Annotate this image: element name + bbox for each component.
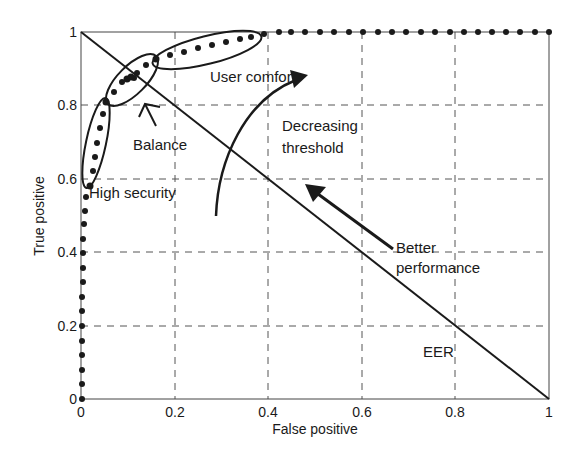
eer-line	[81, 32, 549, 399]
y-tick-labels: 0 0.2 0.4 0.6 0.8 1	[58, 24, 78, 407]
roc-chart: 0 0.2 0.4 0.6 0.8 1 0 0.2 0.4 0.6 0.8 1 …	[0, 0, 579, 466]
threshold-label: threshold	[282, 139, 344, 156]
user-comfort-label: User comfort	[210, 68, 297, 85]
x-tick: 0.4	[258, 404, 278, 420]
y-tick: 0.2	[58, 318, 78, 334]
y-tick: 0.8	[58, 97, 78, 113]
decreasing-label: Decreasing	[282, 117, 358, 134]
balance-label: Balance	[133, 136, 187, 153]
eer-label: EER	[423, 343, 454, 360]
better-label: Better	[396, 239, 436, 256]
y-tick: 1	[69, 24, 77, 40]
x-tick: 0.2	[165, 404, 185, 420]
y-tick: 0	[69, 391, 77, 407]
performance-label: performance	[396, 259, 480, 276]
y-tick: 0.6	[58, 171, 78, 187]
x-tick: 0	[77, 404, 85, 420]
x-tick: 0.6	[352, 404, 372, 420]
y-axis-label: True positive	[31, 176, 47, 256]
x-tick-labels: 0 0.2 0.4 0.6 0.8 1	[77, 404, 553, 420]
x-axis-label: False positive	[272, 421, 358, 437]
better-performance-arrow-icon	[305, 184, 393, 249]
y-tick: 0.4	[58, 244, 78, 260]
high-security-label: High security	[89, 184, 176, 201]
x-tick: 1	[545, 404, 553, 420]
balance-arrow-icon	[139, 104, 160, 126]
region-ellipses	[77, 23, 265, 190]
x-tick: 0.8	[445, 404, 465, 420]
